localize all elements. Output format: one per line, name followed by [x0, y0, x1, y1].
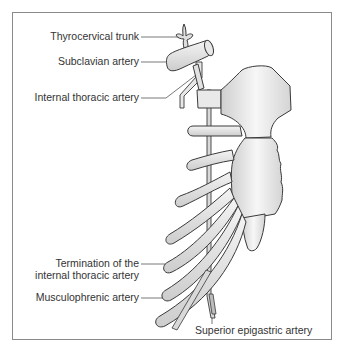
ribs	[156, 126, 246, 327]
label-superior-epigastric-artery: Superior epigastric artery	[195, 325, 312, 336]
subclavian-artery-shape	[166, 24, 215, 90]
label-thyrocervical-trunk: Thyrocervical trunk	[14, 31, 139, 42]
label-musculophrenic-artery: Musculophrenic artery	[14, 292, 139, 303]
rib-2	[188, 126, 242, 136]
label-internal-thoracic-artery: Internal thoracic artery	[14, 92, 139, 103]
first-costal-cartilage	[197, 90, 221, 108]
label-subclavian-artery: Subclavian artery	[14, 56, 139, 67]
xiphoid-process	[242, 214, 265, 251]
label-termination-line1: Termination of the	[14, 258, 139, 269]
label-termination-line2: internal thoracic artery	[14, 270, 139, 281]
